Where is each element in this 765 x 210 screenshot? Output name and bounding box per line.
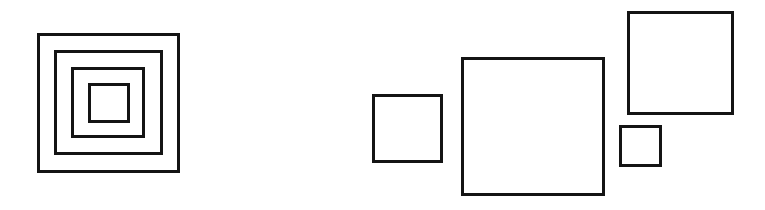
square-small-right [619,125,662,167]
square-medium-left [372,94,443,163]
square-inner [88,83,130,123]
square-top-right [627,11,734,115]
square-large-center [461,57,605,196]
